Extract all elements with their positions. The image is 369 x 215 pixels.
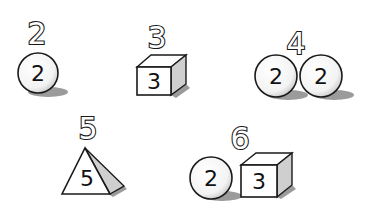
group-two: 2 2 bbox=[18, 16, 68, 97]
shapes-number-diagram: 2 2 3 3 4 2 2 5 5 6 2 bbox=[0, 0, 369, 215]
sphere-value: 2 bbox=[314, 64, 328, 89]
cube-value: 3 bbox=[252, 169, 266, 194]
group-four: 4 2 2 bbox=[255, 26, 354, 100]
group-six: 6 2 3 bbox=[190, 121, 296, 201]
total-label-four: 4 bbox=[286, 26, 305, 61]
group-three: 3 3 bbox=[137, 20, 190, 98]
total-label-six: 6 bbox=[230, 121, 249, 156]
total-label-five: 5 bbox=[78, 111, 97, 146]
sphere-value: 2 bbox=[269, 64, 283, 89]
sphere-value: 2 bbox=[31, 61, 45, 86]
sphere-value: 2 bbox=[204, 166, 218, 191]
group-five: 5 5 bbox=[62, 111, 127, 197]
pyramid-value: 5 bbox=[80, 166, 94, 191]
total-label-two: 2 bbox=[27, 16, 46, 51]
total-label-three: 3 bbox=[147, 20, 166, 55]
cube-value: 3 bbox=[147, 69, 161, 94]
